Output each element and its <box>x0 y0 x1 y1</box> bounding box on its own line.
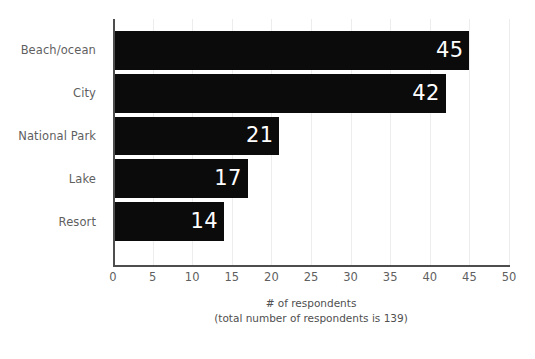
y-axis-tick-label: Beach/ocean <box>0 29 104 72</box>
bar-series: 45 42 21 17 14 <box>113 29 509 243</box>
x-axis-tick-label: 50 <box>502 270 517 284</box>
bar-band: 21 <box>113 115 509 158</box>
x-axis-tick-label: 30 <box>343 270 358 284</box>
x-axis-tick-label: 5 <box>149 270 156 284</box>
y-axis-tick-label: Lake <box>0 157 104 200</box>
bar-city: 42 <box>113 74 446 113</box>
y-axis-line <box>113 19 115 266</box>
bar-value-label: 42 <box>412 83 445 104</box>
bar-value-label: 21 <box>246 125 279 146</box>
x-axis-tick-label: 20 <box>264 270 279 284</box>
bar-band: 17 <box>113 157 509 200</box>
y-axis-tick-label: Resort <box>0 200 104 243</box>
bar-resort: 14 <box>113 202 224 241</box>
bar-lake: 17 <box>113 159 248 198</box>
bar-value-label: 17 <box>214 168 247 189</box>
x-axis-title-main: # of respondents <box>113 296 509 311</box>
x-axis-tick-label: 25 <box>304 270 319 284</box>
x-axis-title: # of respondents (total number of respon… <box>113 296 509 326</box>
bar-band: 14 <box>113 200 509 243</box>
bar-value-label: 14 <box>191 211 224 232</box>
y-axis-tick-label: City <box>0 72 104 115</box>
bar-band: 42 <box>113 72 509 115</box>
bar-band: 45 <box>113 29 509 72</box>
gridline <box>509 19 510 266</box>
bar-national-park: 21 <box>113 117 279 156</box>
x-axis-line <box>113 265 510 267</box>
bar-beach-ocean: 45 <box>113 31 469 70</box>
x-axis-tick-label: 10 <box>185 270 200 284</box>
x-axis-tick-label: 35 <box>383 270 398 284</box>
x-axis-tick-label: 15 <box>224 270 239 284</box>
y-axis-category-labels: Beach/ocean City National Park Lake Reso… <box>0 29 104 243</box>
bar-chart: Beach/ocean City National Park Lake Reso… <box>0 0 535 359</box>
x-axis-tick-labels: 05101520253035404550 <box>113 270 509 290</box>
x-axis-tick-label: 45 <box>462 270 477 284</box>
y-axis-tick-label: National Park <box>0 115 104 158</box>
x-axis-title-note: (total number of respondents is 139) <box>113 311 509 326</box>
x-axis-tick-label: 0 <box>109 270 116 284</box>
x-axis-tick-label: 40 <box>422 270 437 284</box>
plot-area: 45 42 21 17 14 <box>113 19 509 266</box>
bar-value-label: 45 <box>436 40 469 61</box>
